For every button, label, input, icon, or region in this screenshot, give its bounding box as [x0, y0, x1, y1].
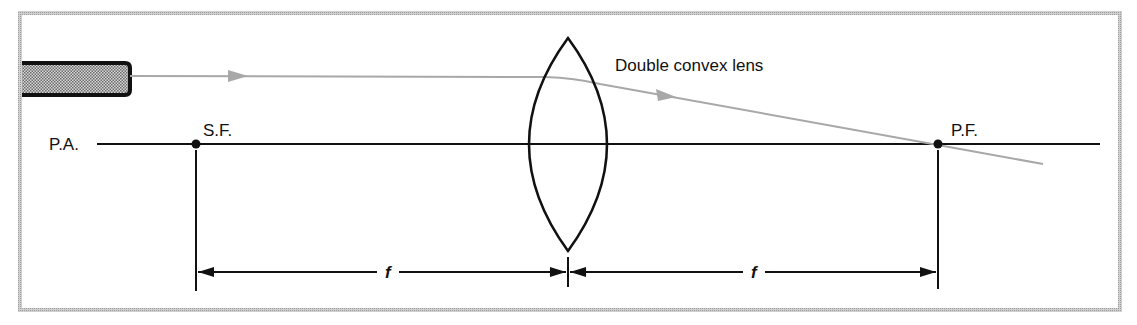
light-ray [130, 70, 1043, 164]
arrowhead-right-icon [550, 267, 566, 277]
principal-axis-label: P.A. [49, 136, 79, 153]
ray-arrow-icon [656, 89, 676, 101]
diagram-canvas [0, 0, 1137, 325]
secondary-focus-dot [192, 140, 201, 149]
lens-diagram: P.A. S.F. P.F. Double convex lens f f [0, 0, 1137, 325]
focal-length-left-label: f [377, 264, 399, 281]
secondary-focus-label: S.F. [203, 122, 232, 139]
arrowhead-right-icon [920, 267, 936, 277]
dimension-extension-lines [196, 150, 938, 291]
focal-length-right-label: f [743, 264, 765, 281]
lens-label: Double convex lens [615, 57, 763, 74]
frame-border [20, 13, 1120, 310]
flashlight-icon [22, 63, 130, 95]
arrowhead-left-icon [198, 267, 214, 277]
principal-focus-label: P.F. [951, 122, 978, 139]
principal-focus-dot [934, 140, 943, 149]
arrowhead-left-icon [570, 267, 586, 277]
ray-arrow-icon [228, 70, 248, 82]
